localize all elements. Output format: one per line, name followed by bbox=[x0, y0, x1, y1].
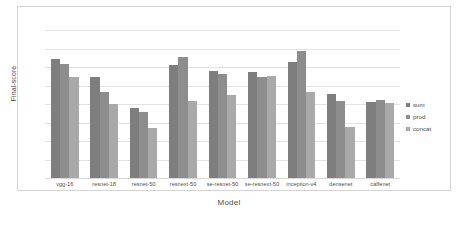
bar-prod-vgg-16 bbox=[60, 64, 69, 178]
legend-label: prod bbox=[413, 113, 425, 120]
bar-sum-densenet bbox=[327, 94, 336, 178]
bar-sum-vgg-16 bbox=[51, 59, 60, 178]
bar-group bbox=[90, 21, 118, 178]
bar-concat-inception-v4 bbox=[306, 92, 315, 178]
bar-group bbox=[248, 21, 276, 178]
bar-concat-vgg-16 bbox=[69, 77, 78, 178]
legend-item-sum[interactable]: sum bbox=[406, 99, 454, 110]
bar-prod-se-resnext-50 bbox=[257, 77, 266, 178]
legend-swatch-icon bbox=[406, 115, 410, 119]
bar-concat-densenet bbox=[345, 127, 354, 178]
bar-sum-se-resnext-50 bbox=[248, 72, 257, 178]
bar-groups-layer bbox=[45, 21, 400, 178]
x-tick-label: caffenet bbox=[343, 181, 418, 187]
bar-sum-resnet-50 bbox=[130, 108, 139, 178]
bar-sum-resnet-18 bbox=[90, 77, 99, 178]
legend-item-concat[interactable]: concat bbox=[406, 123, 454, 134]
bar-group bbox=[130, 21, 158, 178]
bar-prod-resnet-18 bbox=[100, 92, 109, 178]
bar-concat-resnet-50 bbox=[148, 128, 157, 178]
legend-swatch-icon bbox=[406, 103, 410, 107]
x-axis-title: Model bbox=[0, 198, 458, 207]
bar-concat-se-resnext-50 bbox=[267, 76, 276, 179]
bar-prod-caffenet bbox=[376, 100, 385, 178]
bar-sum-resnext-50 bbox=[169, 65, 178, 178]
legend-item-prod[interactable]: prod bbox=[406, 111, 454, 122]
bar-prod-inception-v4 bbox=[297, 51, 306, 178]
bar-group bbox=[327, 21, 355, 178]
bar-sum-inception-v4 bbox=[288, 62, 297, 178]
bar-group bbox=[366, 21, 394, 178]
legend-swatch-icon bbox=[406, 127, 410, 131]
gridline bbox=[45, 178, 400, 179]
y-axis-title: Final-score bbox=[10, 44, 17, 124]
bar-prod-resnext-50 bbox=[178, 57, 187, 178]
bar-concat-se-resnet-50 bbox=[227, 95, 236, 178]
bar-concat-caffenet bbox=[385, 103, 394, 178]
legend-label: concat bbox=[413, 125, 431, 132]
bar-chart-figure: Final-score 0.60.620.640.660.680.70.720.… bbox=[0, 0, 458, 225]
bar-concat-resnet-18 bbox=[109, 104, 118, 178]
bar-prod-resnet-50 bbox=[139, 112, 148, 178]
bar-concat-resnext-50 bbox=[188, 101, 197, 178]
bar-group bbox=[51, 21, 79, 178]
chart-legend: sumprodconcat bbox=[406, 99, 454, 135]
bar-sum-se-resnet-50 bbox=[209, 71, 218, 178]
bar-group bbox=[169, 21, 197, 178]
bar-prod-densenet bbox=[336, 101, 345, 178]
bar-group bbox=[209, 21, 237, 178]
legend-label: sum bbox=[413, 101, 425, 108]
plot-area: 0.60.620.640.660.680.70.720.740.76 vgg-1… bbox=[45, 21, 400, 178]
bar-prod-se-resnet-50 bbox=[218, 74, 227, 178]
bar-group bbox=[288, 21, 316, 178]
bar-sum-caffenet bbox=[366, 102, 375, 178]
